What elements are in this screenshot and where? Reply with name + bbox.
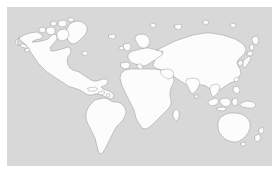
region-sakhalin[interactable]: [250, 44, 254, 51]
region-new-zealand-south[interactable]: [255, 134, 261, 142]
region-banks-island[interactable]: [39, 27, 46, 33]
region-ireland[interactable]: [119, 46, 124, 50]
region-japan[interactable]: [243, 56, 251, 68]
region-svalbard[interactable]: [150, 23, 156, 28]
region-sumatra[interactable]: [208, 98, 219, 106]
region-indochina[interactable]: [210, 84, 220, 97]
region-new-zealand-north[interactable]: [259, 127, 264, 134]
region-sri-lanka[interactable]: [195, 95, 198, 98]
region-philippines[interactable]: [233, 86, 240, 94]
region-iceland[interactable]: [109, 34, 116, 39]
region-victoria-island[interactable]: [46, 27, 55, 35]
region-new-siberian-islands[interactable]: [230, 23, 236, 28]
region-korea[interactable]: [238, 60, 243, 66]
region-india[interactable]: [186, 78, 200, 94]
region-arctic-islet-a[interactable]: [51, 21, 57, 26]
region-novaya-zemlya[interactable]: [175, 24, 182, 30]
world-map-figure: [0, 0, 279, 171]
map-panel: [7, 7, 272, 166]
region-north-america[interactable]: [19, 32, 114, 99]
region-newfoundland[interactable]: [82, 51, 88, 56]
region-sulawesi[interactable]: [232, 98, 238, 106]
region-ellesmere-island[interactable]: [58, 20, 67, 27]
world-map-svg[interactable]: [7, 7, 272, 166]
region-iberia[interactable]: [121, 62, 130, 69]
region-great-britain[interactable]: [123, 43, 131, 51]
region-scandinavia[interactable]: [135, 34, 150, 48]
region-lesser-antilles[interactable]: [107, 94, 110, 97]
region-new-guinea[interactable]: [240, 101, 256, 108]
region-tasmania[interactable]: [241, 142, 246, 146]
region-south-america[interactable]: [86, 98, 126, 154]
region-java[interactable]: [217, 107, 227, 111]
region-australia[interactable]: [218, 113, 250, 142]
region-arctic-islet-b[interactable]: [68, 18, 74, 22]
region-kamchatka[interactable]: [252, 36, 259, 45]
region-arctic-russia-islet[interactable]: [203, 20, 209, 25]
region-greenland[interactable]: [66, 21, 87, 44]
region-vancouver-island[interactable]: [25, 48, 30, 52]
region-borneo[interactable]: [220, 98, 231, 107]
region-baffin-island[interactable]: [57, 29, 69, 41]
region-madagascar[interactable]: [173, 109, 179, 121]
region-japan-hokkaido[interactable]: [247, 51, 253, 56]
